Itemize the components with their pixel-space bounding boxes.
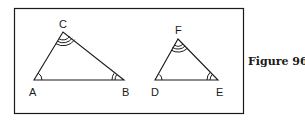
vertex-label-b: B: [122, 86, 129, 98]
vertex-label-f: F: [175, 24, 182, 36]
angle-d-mark: [160, 75, 163, 81]
similar-triangles-figure: A B C D E F Figure 96: [0, 0, 305, 120]
triangle-abc: A B C: [29, 18, 129, 98]
figure-caption: Figure 96: [248, 55, 305, 68]
triangle-abc-outline: [34, 32, 124, 80]
angle-b-mark-2: [112, 74, 114, 81]
triangle-def: D E F: [151, 24, 223, 98]
angle-b-mark-1: [115, 75, 117, 80]
vertex-label-d: D: [151, 86, 159, 98]
vertex-label-a: A: [29, 86, 37, 98]
vertex-label-c: C: [59, 18, 67, 30]
angle-e-mark-2: [207, 72, 210, 80]
vertex-label-e: E: [216, 86, 223, 98]
angle-a-mark: [38, 73, 42, 80]
angle-e-mark-1: [210, 75, 212, 81]
